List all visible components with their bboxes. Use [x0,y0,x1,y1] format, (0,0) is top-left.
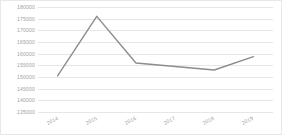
y-tick-label: 135000 [17,109,35,115]
y-tick-label: 150000 [17,74,35,80]
x-tick-label: 2014 [45,115,58,126]
line-chart: 1350001400001450001500001550001600001650… [0,0,282,135]
x-axis: 201420152016201720182019 [38,112,273,135]
y-tick-label: 180000 [17,4,35,10]
x-tick-label: 2018 [202,115,215,126]
y-tick-label: 145000 [17,86,35,92]
plot-area [38,7,273,112]
y-tick-label: 140000 [17,97,35,103]
x-tick-label: 2015 [84,115,97,126]
series-line [58,16,254,76]
y-tick-label: 160000 [17,51,35,57]
x-tick-label: 2017 [163,115,176,126]
y-tick-label: 175000 [17,16,35,22]
y-tick-label: 155000 [17,62,35,68]
x-tick-label: 2019 [241,115,254,126]
x-tick-label: 2016 [124,115,137,126]
y-tick-label: 170000 [17,27,35,33]
y-tick-label: 165000 [17,39,35,45]
series-line-group [38,7,273,112]
y-axis: 1350001400001450001500001550001600001650… [1,1,38,118]
